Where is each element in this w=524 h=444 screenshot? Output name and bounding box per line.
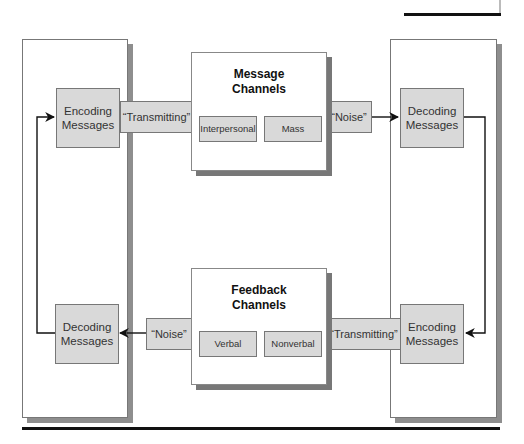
left-loop-arrow (37, 117, 55, 333)
arrows-layer (0, 0, 524, 444)
right-loop-arrow (464, 117, 485, 333)
